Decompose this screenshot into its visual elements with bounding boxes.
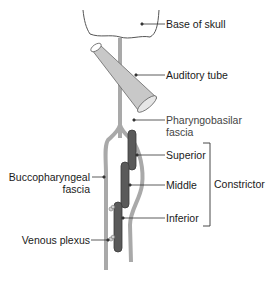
label-superior: Superior (166, 149, 206, 161)
inferior-constrictor-muscle (114, 202, 122, 252)
label-pharyngobasilar-fascia: fascia (166, 126, 193, 138)
superior-constrictor-muscle (128, 130, 136, 170)
label-pharyngobasilar: Pharyngobasilar (166, 114, 242, 126)
label-buccopharyngeal-fascia: fascia (63, 183, 90, 195)
label-venous-plexus: Venous plexus (22, 234, 90, 246)
label-inferior: Inferior (166, 212, 199, 224)
label-auditory-tube: Auditory tube (166, 69, 228, 81)
label-buccopharyngeal: Buccopharyngeal (9, 171, 90, 183)
label-base-of-skull: Base of skull (166, 18, 226, 30)
middle-constrictor-muscle (121, 162, 129, 208)
label-constrictor: Constrictor (214, 178, 265, 190)
auditory-tube-shape (89, 42, 158, 115)
label-middle: Middle (166, 179, 197, 191)
